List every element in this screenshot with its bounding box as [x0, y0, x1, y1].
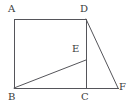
- geometry-canvas: [0, 0, 132, 108]
- vertex-label-f: F: [119, 82, 126, 92]
- figure-strokes-diagonal: [14, 19, 118, 88]
- vertex-label-d: D: [80, 4, 88, 14]
- vertex-label-b: B: [8, 92, 15, 102]
- vertex-label-e: E: [72, 44, 79, 54]
- vertex-label-a: A: [8, 4, 15, 14]
- vertex-label-c: C: [81, 92, 89, 102]
- segment-BE: [14, 60, 86, 88]
- segment-DF: [86, 19, 118, 88]
- geometry-figure: A D E B C F: [0, 0, 132, 108]
